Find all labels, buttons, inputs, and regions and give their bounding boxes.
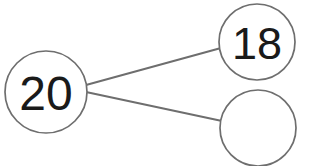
connector-line-total-to-part-1 [86, 48, 221, 85]
number-bond-canvas: 20 18 [0, 0, 311, 166]
total-value: 20 [19, 67, 72, 120]
connector-line-total-to-part-2 [86, 92, 222, 121]
part-value-1: 18 [232, 18, 282, 69]
part-circle-2-blank[interactable] [220, 90, 296, 166]
number-bond-diagram: 20 18 [0, 0, 311, 166]
